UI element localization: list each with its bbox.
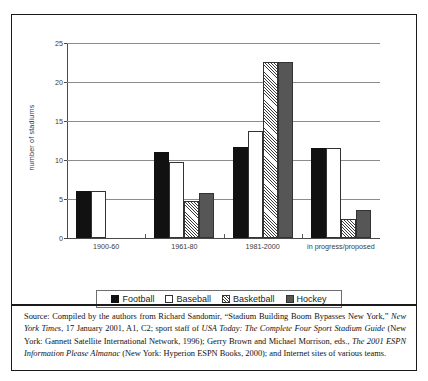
plot-area: 0510152025 1900-601961-801981-2000in pro… [67, 43, 380, 239]
source-note: Source: Compiled by the authors from Ric… [24, 311, 406, 361]
y-tick-mark [64, 82, 67, 83]
bar-group [311, 43, 371, 238]
legend-swatch-hockey [286, 295, 294, 303]
chart-region: number of stadiums 0510152025 1900-60196… [12, 15, 416, 304]
legend-label-hockey: Hockey [297, 294, 327, 304]
source-text-part: (New York: Hyperion ESPN Books, 2000); a… [120, 349, 386, 358]
y-tick-mark [64, 238, 67, 239]
x-axis-line [67, 238, 380, 239]
legend-label-baseball: Baseball [176, 294, 211, 304]
bar-basketball [341, 219, 356, 239]
figure-frame: number of stadiums 0510152025 1900-60196… [11, 14, 417, 371]
bar-football [76, 191, 91, 238]
y-tick-mark [64, 121, 67, 122]
y-tick-label: 5 [59, 195, 63, 204]
x-tick-label: 1961-80 [171, 242, 197, 251]
source-text-part: Source: Compiled by the authors from Ric… [24, 312, 391, 321]
legend-swatch-football [111, 295, 119, 303]
y-tick-label: 25 [55, 39, 63, 48]
bar-group [76, 43, 136, 238]
y-axis-line [67, 43, 68, 239]
bar-baseball [248, 131, 263, 238]
y-tick-mark [64, 43, 67, 44]
legend-item-baseball: Baseball [165, 294, 211, 304]
legend-label-basketball: Basketball [233, 294, 275, 304]
y-tick-label: 15 [55, 117, 63, 126]
bar-basketball [184, 201, 199, 238]
x-axis-group-separator [145, 234, 146, 238]
bar-baseball [326, 148, 341, 238]
x-axis-group-separator [302, 234, 303, 238]
y-tick-label: 20 [55, 78, 63, 87]
bar-basketball [263, 62, 278, 238]
bar-hockey [278, 62, 293, 238]
bar-football [233, 147, 248, 238]
bar-hockey [356, 210, 371, 238]
legend-item-football: Football [111, 294, 154, 304]
bar-baseball [91, 191, 106, 238]
legend-swatch-baseball [165, 295, 173, 303]
legend-item-basketball: Basketball [222, 294, 275, 304]
y-tick-mark [64, 160, 67, 161]
bar-group [233, 43, 293, 238]
y-tick-label: 10 [55, 156, 63, 165]
figure-divider [12, 304, 416, 306]
x-tick-label: 1900-60 [93, 242, 119, 251]
y-tick-mark [64, 199, 67, 200]
legend-swatch-basketball [222, 295, 230, 303]
bar-group [154, 43, 214, 238]
bar-football [311, 148, 326, 238]
bar-baseball [169, 162, 184, 238]
legend-item-hockey: Hockey [286, 294, 327, 304]
y-tick-label: 0 [59, 234, 63, 243]
source-italic-usatoday: USA Today: The Complete Four Sport Stadi… [202, 324, 385, 333]
source-text-part: , 17 January 2001, A1, C2; sport staff o… [61, 324, 201, 333]
bar-hockey [199, 193, 214, 238]
x-axis-group-separator [224, 234, 225, 238]
legend-label-football: Football [122, 294, 154, 304]
x-tick-label: 1981-2000 [245, 242, 279, 251]
bar-football [154, 152, 169, 238]
y-axis-label: number of stadiums [27, 83, 36, 193]
x-tick-label: in progress/proposed [307, 242, 375, 251]
